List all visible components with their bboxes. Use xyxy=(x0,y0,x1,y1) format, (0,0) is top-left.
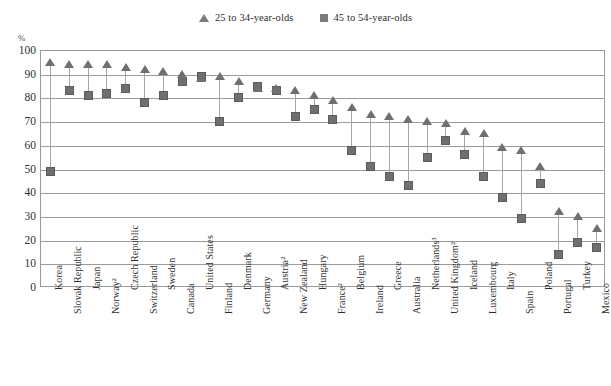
x-tick-canada: Canada xyxy=(185,283,196,314)
data-point-triangle[interactable] xyxy=(535,162,545,170)
legend-entry-45-54: 45 to 54-year-olds xyxy=(320,12,413,23)
x-tick-mexico: Mexico xyxy=(600,283,611,314)
data-point-square[interactable] xyxy=(423,153,432,162)
x-tick-denmark: Denmark xyxy=(242,252,253,290)
x-tick-slovak-republic: Slovak Republic xyxy=(72,246,83,314)
data-point-square[interactable] xyxy=(385,172,394,181)
chart-legend: 25 to 34-year-olds 45 to 54-year-olds xyxy=(0,12,611,23)
data-point-triangle[interactable] xyxy=(573,212,583,220)
x-tick-poland: Poland xyxy=(543,262,554,290)
y-tick-0: 0 xyxy=(30,281,36,293)
data-point-square[interactable] xyxy=(592,243,601,252)
x-tick-portugal: Portugal xyxy=(562,279,573,314)
x-tick-new-zealand: New Zealand xyxy=(298,259,309,314)
data-point-square[interactable] xyxy=(347,146,356,155)
x-tick-norway: Norway² xyxy=(110,278,121,314)
x-tick-belgium: Belgium xyxy=(355,255,366,290)
x-tick-austria: Austria² xyxy=(279,257,290,290)
data-point-square[interactable] xyxy=(234,93,243,102)
data-point-square[interactable] xyxy=(404,181,413,190)
data-point-triangle[interactable] xyxy=(460,127,470,135)
data-point-triangle[interactable] xyxy=(158,67,168,75)
y-axis-unit-label: % xyxy=(18,33,26,43)
data-point-triangle[interactable] xyxy=(479,129,489,137)
data-point-triangle[interactable] xyxy=(64,60,74,68)
y-tick-30: 30 xyxy=(25,210,37,222)
data-point-triangle[interactable] xyxy=(384,112,394,120)
data-point-triangle[interactable] xyxy=(253,84,263,92)
gridline-20 xyxy=(41,241,604,242)
data-point-square[interactable] xyxy=(460,150,469,159)
y-tick-80: 80 xyxy=(25,91,37,103)
data-point-triangle[interactable] xyxy=(121,63,131,71)
data-point-triangle[interactable] xyxy=(422,117,432,125)
data-point-triangle[interactable] xyxy=(403,115,413,123)
gridline-50 xyxy=(41,170,604,171)
data-point-triangle[interactable] xyxy=(196,74,206,82)
connector-line xyxy=(521,151,522,220)
x-tick-italy: Italy xyxy=(505,271,516,290)
data-point-triangle[interactable] xyxy=(177,70,187,78)
data-point-square[interactable] xyxy=(573,238,582,247)
data-point-square[interactable] xyxy=(102,89,111,98)
data-point-triangle[interactable] xyxy=(497,143,507,151)
connector-line xyxy=(370,115,371,167)
triangle-icon xyxy=(199,14,209,22)
x-tick-finland: Finland xyxy=(223,283,234,314)
data-point-triangle[interactable] xyxy=(592,224,602,232)
data-point-triangle[interactable] xyxy=(234,77,244,85)
data-point-triangle[interactable] xyxy=(347,103,357,111)
data-point-triangle[interactable] xyxy=(102,60,112,68)
data-point-triangle[interactable] xyxy=(271,84,281,92)
connector-line xyxy=(483,134,484,177)
legend-entry-25-34: 25 to 34-year-olds xyxy=(199,12,294,23)
data-point-square[interactable] xyxy=(328,115,337,124)
data-point-square[interactable] xyxy=(536,179,545,188)
square-icon xyxy=(320,14,328,22)
data-point-triangle[interactable] xyxy=(290,86,300,94)
x-tick-germany: Germany xyxy=(261,276,272,314)
data-point-square[interactable] xyxy=(159,91,168,100)
data-point-square[interactable] xyxy=(310,105,319,114)
data-point-triangle[interactable] xyxy=(83,60,93,68)
data-point-square[interactable] xyxy=(291,112,300,121)
plot-area xyxy=(40,50,605,287)
x-tick-turkey: Turkey xyxy=(581,261,592,290)
data-point-square[interactable] xyxy=(65,86,74,95)
x-tick-czech-republic: Czech Republic xyxy=(129,225,140,290)
y-tick-50: 50 xyxy=(25,163,37,175)
connector-line xyxy=(558,212,559,255)
data-point-triangle[interactable] xyxy=(140,65,150,73)
data-point-triangle[interactable] xyxy=(516,146,526,154)
data-point-triangle[interactable] xyxy=(441,119,451,127)
data-point-square[interactable] xyxy=(517,214,526,223)
x-tick-hungary: Hungary xyxy=(317,254,328,290)
x-tick-ireland: Ireland xyxy=(374,285,385,314)
x-tick-luxembourg: Luxembourg xyxy=(487,262,498,314)
data-point-triangle[interactable] xyxy=(45,58,55,66)
data-point-square[interactable] xyxy=(140,98,149,107)
data-point-square[interactable] xyxy=(46,167,55,176)
data-point-square[interactable] xyxy=(84,91,93,100)
data-point-triangle[interactable] xyxy=(328,96,338,104)
y-tick-20: 20 xyxy=(25,234,37,246)
y-tick-90: 90 xyxy=(25,68,37,80)
data-point-square[interactable] xyxy=(498,193,507,202)
data-point-square[interactable] xyxy=(441,136,450,145)
x-tick-iceland: Iceland xyxy=(468,260,479,290)
data-point-triangle[interactable] xyxy=(366,110,376,118)
data-point-square[interactable] xyxy=(479,172,488,181)
gridline-80 xyxy=(41,98,604,99)
data-point-square[interactable] xyxy=(366,162,375,171)
connector-line xyxy=(408,120,409,186)
y-axis-tick-labels: 0102030405060708090100 xyxy=(0,50,36,287)
data-point-square[interactable] xyxy=(215,117,224,126)
data-point-square[interactable] xyxy=(121,84,130,93)
data-point-square[interactable] xyxy=(178,77,187,86)
data-point-square[interactable] xyxy=(554,250,563,259)
data-point-triangle[interactable] xyxy=(309,91,319,99)
y-tick-100: 100 xyxy=(19,44,36,56)
connector-line xyxy=(351,108,352,151)
data-point-triangle[interactable] xyxy=(554,207,564,215)
data-point-triangle[interactable] xyxy=(215,72,225,80)
